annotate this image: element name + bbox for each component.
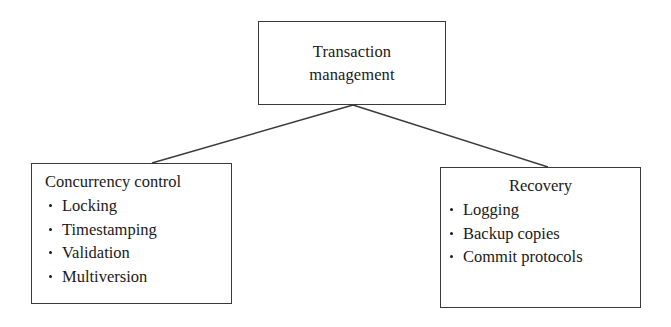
node-heading-concurrency-control: Concurrency control [32,171,231,193]
bullet-list-recovery: Logging Backup copies Commit protocols [441,198,640,269]
list-item: Backup copies [441,222,640,246]
bullet-dot-icon [49,275,52,278]
diagram-canvas: Transaction management Concurrency contr… [0,0,671,327]
bullet-dot-icon [450,255,453,258]
bullet-dot-icon [450,208,453,211]
bullet-dot-icon [49,204,52,207]
list-item-label: Multiversion [62,267,147,286]
bullet-dot-icon [49,251,52,254]
list-item: Multiversion [32,265,231,289]
list-item-label: Backup copies [463,224,560,243]
node-concurrency-control[interactable]: Concurrency control Locking Timestamping… [31,163,232,304]
bullet-list-concurrency-control: Locking Timestamping Validation Multiver… [32,194,231,288]
list-item: Commit protocols [441,245,640,269]
list-item-label: Locking [62,196,117,215]
list-item: Timestamping [32,218,231,242]
node-heading-recovery: Recovery [441,175,640,197]
list-item-label: Timestamping [62,220,157,239]
node-recovery[interactable]: Recovery Logging Backup copies Commit pr… [440,167,641,308]
node-transaction-management[interactable]: Transaction management [258,21,446,105]
list-item-label: Logging [463,200,519,219]
bullet-dot-icon [49,228,52,231]
node-title-line-2: management [309,63,394,86]
list-item: Logging [441,198,640,222]
node-title-line-1: Transaction [313,40,391,63]
list-item-label: Validation [62,243,130,262]
connector-root-to-concurrency [152,105,353,163]
list-item: Validation [32,241,231,265]
connector-root-to-recovery [353,105,548,167]
list-item-label: Commit protocols [463,247,583,266]
list-item: Locking [32,194,231,218]
bullet-dot-icon [450,232,453,235]
